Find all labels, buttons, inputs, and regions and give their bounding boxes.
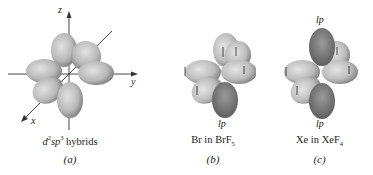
lone-pair-lobe: [212, 82, 238, 118]
panel-label-b: (b): [170, 153, 256, 165]
panel-a-d2sp3-hybrids: z y x d2sp3 hybrids (a): [0, 0, 140, 175]
y-axis-label: y: [131, 76, 135, 87]
lone-pair-lobe-top: [309, 28, 335, 66]
lone-pair-label: lp: [218, 118, 226, 129]
lobe-right: [78, 61, 114, 85]
panel-c-xef4: lp lp Xe in XeF4 (c): [256, 0, 373, 175]
hybrid-lobes: [26, 33, 114, 118]
caption-b: Br in BrF5: [170, 134, 256, 147]
panel-label-c: (c): [266, 153, 373, 165]
caption-a: d2sp3 hybrids: [0, 134, 140, 147]
lone-pair-lobe-bottom: [309, 83, 335, 119]
caption-c: Xe in XeF4: [266, 134, 373, 147]
lone-pair-bottom-label: lp: [316, 118, 324, 129]
d2sp3-orbital-diagram: [0, 0, 140, 175]
lone-pair-top-label: lp: [316, 14, 324, 25]
x-axis-label: x: [31, 115, 35, 126]
panel-label-a: (a): [0, 153, 140, 165]
caption-c-main: Xe in XeF: [296, 134, 340, 145]
caption-c-sub: 4: [340, 140, 343, 147]
panel-b-brf5: lp Br in BrF5 (b): [140, 0, 256, 175]
lobe-down: [57, 82, 83, 118]
lobe-right: [221, 60, 256, 84]
xef4-orbital-diagram: [256, 0, 373, 175]
caption-b-sub: 5: [232, 140, 235, 147]
brf5-orbital-diagram: [140, 0, 256, 175]
caption-b-main: Br in BrF: [191, 134, 231, 145]
caption-a-tail: hybrids: [63, 136, 97, 147]
z-axis-arrow-icon: [67, 11, 72, 18]
z-axis-label: z: [58, 4, 62, 15]
caption-a-sp: sp: [51, 136, 60, 147]
